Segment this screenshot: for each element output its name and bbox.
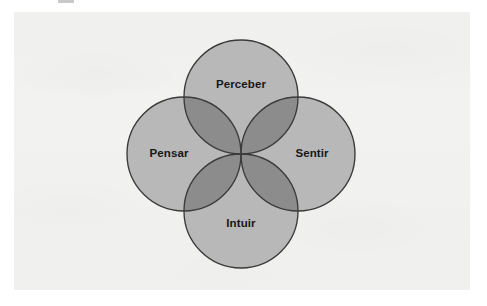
- cropped-text-fragment: [58, 0, 74, 3]
- label-sentir: Sentir: [295, 147, 329, 159]
- venn-svg: Perceber Sentir Intuir Pensar: [14, 12, 470, 290]
- label-pensar: Pensar: [150, 147, 189, 159]
- diagram-panel: Perceber Sentir Intuir Pensar: [14, 12, 470, 290]
- venn-diagram: Perceber Sentir Intuir Pensar: [14, 12, 470, 290]
- page-root: Perceber Sentir Intuir Pensar: [0, 0, 487, 306]
- label-perceber: Perceber: [216, 78, 266, 90]
- label-intuir: Intuir: [226, 217, 256, 229]
